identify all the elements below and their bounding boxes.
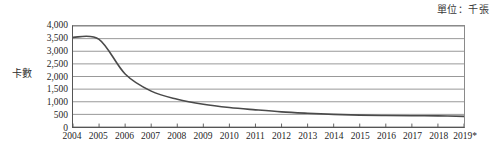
x-axis-tick-label: 2018 (427, 131, 451, 142)
plot-area (72, 25, 465, 128)
y-axis-tick-label: 3,500 (47, 33, 68, 43)
x-axis-tick-label: 2015 (348, 131, 372, 142)
y-axis-tick-label: 1,500 (47, 84, 68, 94)
x-axis-tick-label: 2004 (60, 131, 84, 142)
x-axis-tick-label: 2014 (322, 131, 346, 142)
y-axis-tick-label: 3,000 (47, 46, 68, 56)
x-axis-tick-label: 2009 (191, 131, 215, 142)
x-axis-tick-label: 2007 (139, 131, 163, 142)
y-axis-tick-label: 500 (54, 110, 68, 120)
x-axis-tick-label: 2013 (296, 131, 320, 142)
gridlines (73, 26, 464, 127)
x-axis-tick-labels: 2004200520062007200820092010201120122013… (0, 131, 497, 149)
y-axis-tick-label: 1,000 (47, 97, 68, 107)
x-axis-tick-label: 2008 (165, 131, 189, 142)
plot-svg (73, 26, 464, 127)
x-axis-tick-label: 2019* (453, 131, 477, 142)
y-axis-tick-labels: 4,0003,5003,0002,5002,0001,5001,0005000 (28, 18, 70, 134)
chart-unit-caption: 單位：千張 (437, 4, 489, 16)
x-axis-tick-label: 2005 (86, 131, 110, 142)
x-axis-tick-label: 2010 (217, 131, 241, 142)
y-axis-tick-label: 2,500 (47, 59, 68, 69)
x-axis-tick-label: 2016 (374, 131, 398, 142)
y-axis-tick-label: 2,000 (47, 72, 68, 82)
x-axis-tick-label: 2006 (112, 131, 136, 142)
x-axis-tick-marks (73, 124, 464, 127)
x-axis-tick-label: 2017 (401, 131, 425, 142)
chart-container: 單位：千張 卡數 4,0003,5003,0002,5002,0001,5001… (0, 0, 497, 151)
y-axis-tick-label: 4,000 (47, 20, 68, 30)
x-axis-tick-label: 2011 (243, 131, 267, 142)
x-axis-tick-label: 2012 (270, 131, 294, 142)
